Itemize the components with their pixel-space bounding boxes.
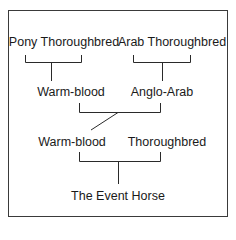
node-warm-blood-2: Warm-blood	[38, 135, 106, 149]
bracket-arab-thoroughbred	[134, 55, 191, 63]
node-anglo-arab: Anglo-Arab	[131, 85, 194, 99]
node-thoroughbred: Thoroughbred	[128, 135, 207, 149]
bracket-pony-thoroughbred	[26, 55, 82, 63]
bracket-warm-blood-thoroughbred	[80, 152, 161, 162]
diagonal-to-warm-blood-2	[91, 113, 118, 131]
node-arab-thoroughbred: Arab Thoroughbred	[118, 35, 226, 49]
node-pony-thoroughbred: Pony Thoroughbred	[9, 35, 119, 49]
node-warm-blood-1: Warm-blood	[37, 85, 105, 99]
bracket-warm-blood-anglo-arab	[80, 103, 161, 113]
node-event-horse: The Event Horse	[71, 189, 165, 203]
